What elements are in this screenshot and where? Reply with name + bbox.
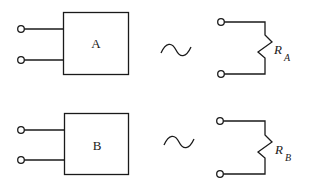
resistor-a-icon [224,22,272,74]
equivalent-tilde-icon-b [164,136,194,147]
resistor-a-label: R [273,42,282,57]
resistor-b-icon [223,121,272,174]
box-b-label: B [93,138,102,153]
resistor-circuit-b [217,118,272,178]
resistor-b-label: R [274,142,283,157]
terminal-rb-bottom-icon [217,171,224,178]
equivalent-tilde-icon-a [161,44,191,55]
network-a [18,13,129,75]
box-a-label: A [91,36,101,51]
network-b [18,114,129,175]
terminal-ra-bottom-icon [218,71,225,78]
terminal-b-bottom-icon [18,157,25,164]
resistor-a-subscript: A [283,52,291,63]
terminal-ra-top-icon [218,19,225,26]
terminal-a-bottom-icon [18,57,25,64]
resistor-b-subscript: B [285,152,291,163]
resistor-circuit-a [218,19,272,78]
terminal-b-top-icon [18,127,25,134]
circuit-diagram: A B R A R B [0,0,309,185]
terminal-a-top-icon [18,26,25,33]
terminal-rb-top-icon [217,118,224,125]
